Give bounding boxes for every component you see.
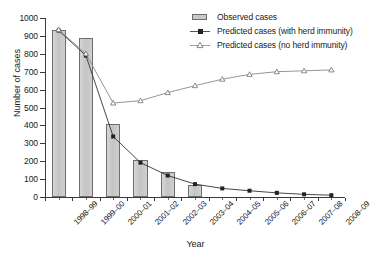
- bar: [133, 160, 147, 197]
- triangle-marker-icon: [301, 68, 306, 73]
- triangle-marker-icon: [329, 67, 334, 72]
- y-tick-label: 200: [24, 157, 38, 166]
- x-tick: [154, 198, 155, 201]
- legend-item-predicted-with-herd-immunity: Predicted cases (with herd immunity): [188, 24, 353, 38]
- chart-figure: 01002003004005006007008009001000 Number …: [0, 0, 391, 258]
- x-tick-label: 2004–05: [236, 200, 263, 227]
- x-tick-label: 1998–99: [72, 200, 99, 227]
- x-tick: [318, 198, 319, 201]
- x-tick-label: 2001–02: [154, 200, 181, 227]
- x-tick-label: 1999–00: [100, 200, 127, 227]
- legend-label: Observed cases: [217, 12, 277, 23]
- x-tick-label: 2000–01: [127, 200, 154, 227]
- legend-item-predicted-no-herd-immunity: Predicted cases (no herd immunity): [188, 38, 353, 52]
- y-tick: [40, 179, 45, 180]
- line-triangle-marker-icon: [188, 40, 212, 51]
- line-square-marker-icon: [188, 26, 212, 37]
- y-tick-label: 800: [24, 50, 38, 59]
- triangle-marker-icon: [274, 69, 279, 74]
- x-tick-minor: [195, 198, 196, 200]
- y-tick-label: 500: [24, 104, 38, 113]
- x-tick: [100, 198, 101, 201]
- y-tick: [40, 18, 45, 19]
- x-tick-minor: [331, 198, 332, 200]
- square-marker-icon: [248, 189, 252, 193]
- y-tick: [40, 125, 45, 126]
- x-tick-minor: [277, 198, 278, 200]
- y-tick: [40, 90, 45, 91]
- x-tick-label: 2007–08: [318, 200, 345, 227]
- bar: [79, 38, 93, 197]
- y-tick-label: 900: [24, 32, 38, 41]
- x-tick-label: 2003–04: [209, 200, 236, 227]
- y-tick-label: 400: [24, 121, 38, 130]
- y-tick-label: 600: [24, 86, 38, 95]
- y-axis-title: Number of cases: [12, 38, 22, 128]
- y-tick-label: 300: [24, 139, 38, 148]
- x-tick: [345, 198, 346, 201]
- y-tick: [40, 72, 45, 73]
- triangle-marker-icon: [247, 72, 252, 77]
- square-marker-icon: [275, 191, 279, 195]
- x-tick-minor: [59, 198, 60, 200]
- x-tick-label: 2008–09: [345, 200, 372, 227]
- bar: [188, 185, 202, 197]
- x-tick: [209, 198, 210, 201]
- x-tick-minor: [113, 198, 114, 200]
- legend-label: Predicted cases (no herd immunity): [217, 40, 347, 51]
- x-tick: [72, 198, 73, 201]
- bar: [161, 172, 175, 197]
- x-tick-minor: [86, 198, 87, 200]
- bar: [106, 124, 120, 197]
- y-tick: [40, 54, 45, 55]
- x-tick-label: 2005–06: [263, 200, 290, 227]
- x-tick: [290, 198, 291, 201]
- square-marker-icon: [220, 186, 224, 190]
- y-tick-label: 700: [24, 68, 38, 77]
- x-tick: [263, 198, 264, 201]
- x-tick-minor: [168, 198, 169, 200]
- y-tick: [40, 143, 45, 144]
- y-tick-label: 100: [24, 175, 38, 184]
- legend-item-observed-cases: Observed cases: [188, 10, 353, 24]
- triangle-marker-icon: [138, 98, 143, 103]
- x-tick: [236, 198, 237, 201]
- x-tick-minor: [250, 198, 251, 200]
- x-axis-title: Year: [0, 239, 391, 249]
- chart-legend: Observed cases Predicted cases (with her…: [188, 10, 353, 52]
- triangle-marker-icon: [192, 83, 197, 88]
- square-marker-icon: [302, 192, 306, 196]
- bar-swatch-icon: [188, 12, 212, 23]
- x-tick: [181, 198, 182, 201]
- y-tick: [40, 36, 45, 37]
- y-tick-label: 1000: [19, 14, 38, 23]
- y-tick: [40, 108, 45, 109]
- y-tick-label: 0: [33, 193, 38, 202]
- legend-label: Predicted cases (with herd immunity): [217, 26, 353, 37]
- bar: [52, 30, 66, 197]
- triangle-marker-icon: [165, 90, 170, 95]
- x-tick: [45, 198, 46, 201]
- series-line: [59, 31, 332, 196]
- y-axis-line: [45, 18, 46, 197]
- triangle-marker-icon: [220, 77, 225, 82]
- x-tick-label: 2006–07: [291, 200, 318, 227]
- x-tick-minor: [222, 198, 223, 200]
- triangle-marker-icon: [111, 100, 116, 105]
- y-tick: [40, 161, 45, 162]
- x-tick-minor: [304, 198, 305, 200]
- x-tick-label: 2002–03: [181, 200, 208, 227]
- x-tick-minor: [140, 198, 141, 200]
- x-tick: [127, 198, 128, 201]
